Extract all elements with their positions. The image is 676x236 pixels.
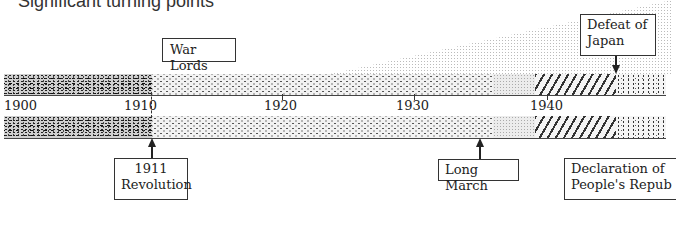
arrow-up-icon <box>476 138 484 147</box>
event-declaration-line1: Declaration of <box>571 161 670 177</box>
long-march-arrow-line <box>479 146 481 160</box>
arrow-up-icon <box>148 138 156 147</box>
year-label-1910: 1910 <box>124 98 157 113</box>
period-transition-lower <box>493 116 535 138</box>
tick-1920 <box>282 94 283 100</box>
event-1911-revolution: 1911 Revolution <box>114 158 188 200</box>
arrow-down-icon <box>612 65 620 74</box>
year-label-1900: 1900 <box>4 98 37 113</box>
event-declaration: Declaration of People's Repub <box>564 158 676 200</box>
event-long-march: Long March <box>438 159 519 181</box>
tick-1930 <box>414 94 415 100</box>
tick-1940 <box>547 94 548 100</box>
event-1911-revolution-line2: Revolution <box>121 177 181 193</box>
event-1911-revolution-line1: 1911 <box>121 161 181 177</box>
event-defeat-of-japan-line1: Defeat of <box>587 17 649 33</box>
period-transition <box>493 74 535 95</box>
period-civil-war <box>616 74 666 95</box>
event-declaration-line2: People's Repub <box>571 177 670 193</box>
period-civil-war-lower <box>616 116 666 138</box>
period-war-lords <box>152 74 493 95</box>
divider-1911 <box>151 92 152 118</box>
period-pre-1911 <box>4 74 152 95</box>
event-war-lords: War Lords <box>162 38 236 62</box>
period-war-lords-lower <box>152 116 493 138</box>
period-war-with-japan <box>535 74 616 95</box>
event-defeat-of-japan: Defeat of Japan <box>580 14 656 56</box>
year-label-1930: 1930 <box>396 98 429 113</box>
diagram-title: Significant turning points <box>18 0 214 12</box>
event-defeat-of-japan-line2: Japan <box>587 33 649 49</box>
period-war-with-japan-lower <box>535 116 616 138</box>
year-label-1940: 1940 <box>530 98 563 113</box>
timeline-band-lower <box>4 116 666 139</box>
year-label-1920: 1920 <box>264 98 297 113</box>
period-pre-1911-lower <box>4 116 152 138</box>
timeline-band-upper <box>4 74 666 96</box>
